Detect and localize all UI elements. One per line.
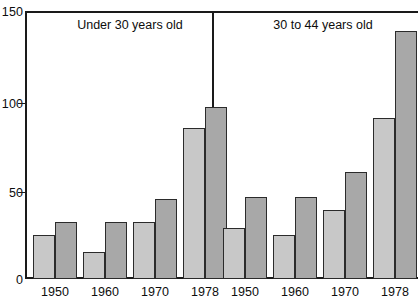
x-tick-label-left-1960: 1960 xyxy=(91,286,119,299)
y-tick-label-0: 0 xyxy=(16,274,23,287)
bar-right-1978-dark xyxy=(395,31,417,279)
x-tick-label-right-1970: 1970 xyxy=(331,286,359,299)
x-tick-label-left-1978: 1978 xyxy=(191,286,219,299)
y-tick-label-150: 150 xyxy=(2,6,23,19)
bar-right-1960-light xyxy=(273,235,295,279)
bar-right-1978-light xyxy=(373,118,395,279)
bar-left-1960-dark xyxy=(105,222,127,279)
y-tick-mark-100 xyxy=(18,103,27,104)
bar-left-1970-light xyxy=(133,222,155,279)
x-tick-label-right-1978: 1978 xyxy=(381,286,409,299)
x-tick-label-right-1950: 1950 xyxy=(231,286,259,299)
bar-left-1970-dark xyxy=(155,199,177,279)
bar-right-1950-dark xyxy=(245,197,267,279)
bar-chart: 150 100 50 0 Under 30 years old 30 to 44… xyxy=(0,0,418,308)
bar-left-1978-light xyxy=(183,128,205,279)
bar-left-1960-light xyxy=(83,252,105,279)
bar-right-1970-light xyxy=(323,210,345,279)
y-tick-label-50: 50 xyxy=(9,187,23,200)
bars-layer xyxy=(27,11,418,279)
y-axis: 150 100 50 0 xyxy=(0,0,23,308)
y-tick-label-100: 100 xyxy=(2,98,23,111)
x-tick-label-left-1970: 1970 xyxy=(141,286,169,299)
bar-left-1950-dark xyxy=(55,222,77,279)
x-tick-label-right-1960: 1960 xyxy=(281,286,309,299)
y-tick-mark-50 xyxy=(18,192,27,193)
x-tick-label-left-1950: 1950 xyxy=(41,286,69,299)
bar-left-1950-light xyxy=(33,235,55,279)
bar-right-1970-dark xyxy=(345,172,367,279)
bar-right-1950-light xyxy=(223,228,245,279)
bar-right-1960-dark xyxy=(295,197,317,279)
